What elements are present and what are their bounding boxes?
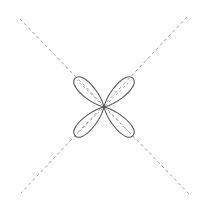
lobe-lower-right [99,102,137,140]
lobe-outline [99,102,137,140]
lobe-axis-dash [77,80,102,105]
lobe-lower-left [70,102,108,140]
lobe-upper-right [99,73,137,111]
dashed-axes [20,17,190,195]
lobe-outline [70,102,108,140]
lobe-axis-dash [77,108,102,133]
four-lobe-diagram [0,0,200,204]
lobe-axis-dash [105,80,130,105]
origin-point [103,106,105,108]
lobe-outline [99,73,137,111]
lobe-axis-dash [105,108,130,133]
